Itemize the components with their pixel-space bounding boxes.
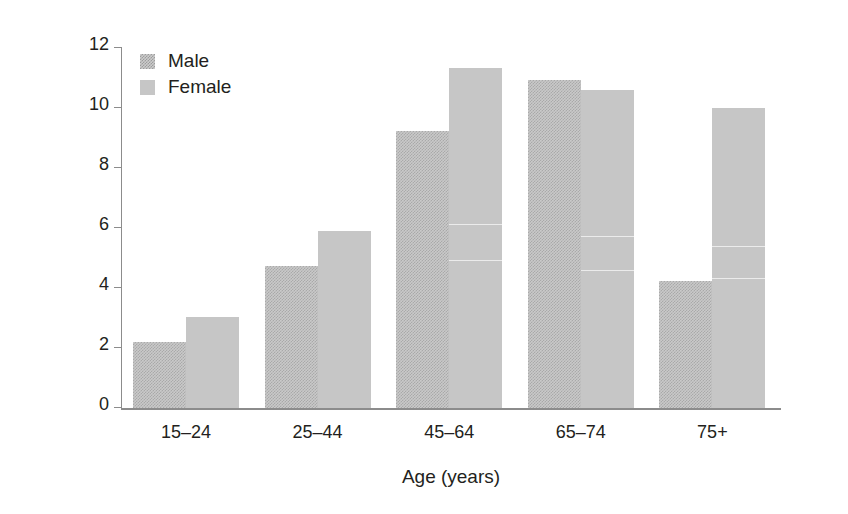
plot-area: 024681012 15–2425–4445–6465–7475+ bbox=[122, 48, 780, 408]
legend-label-male: Male bbox=[168, 50, 209, 72]
bar-male-2 bbox=[396, 131, 449, 409]
bar-scanline bbox=[581, 270, 634, 271]
bar-scanline bbox=[581, 236, 634, 237]
bar-female-3 bbox=[581, 90, 634, 408]
bar-female-2 bbox=[449, 68, 502, 409]
bar-male-1 bbox=[265, 266, 318, 409]
bar-scanline bbox=[712, 246, 765, 247]
bar-male-3 bbox=[528, 80, 581, 409]
y-axis-tick-mark bbox=[114, 347, 122, 348]
bar-scanline bbox=[449, 224, 502, 225]
bar-female-1 bbox=[318, 231, 371, 408]
incidence-by-age-bar-chart: Incidence/1000 population 024681012 15–2… bbox=[0, 0, 848, 514]
x-axis-category-label: 45–64 bbox=[376, 422, 522, 443]
x-axis-category-label: 75+ bbox=[639, 422, 785, 443]
y-axis-title: Incidence/1000 population bbox=[18, 0, 48, 82]
bar-male-4 bbox=[659, 281, 712, 409]
bar-series-group bbox=[122, 48, 780, 408]
bar-scanline bbox=[449, 260, 502, 261]
y-axis-tick-label: 8 bbox=[99, 155, 109, 173]
y-axis-tick-mark bbox=[114, 407, 122, 408]
y-axis-tick-label: 4 bbox=[99, 275, 109, 293]
bar-male-0 bbox=[133, 342, 186, 408]
y-axis-tick-label: 10 bbox=[89, 95, 109, 113]
y-axis-tick-mark bbox=[114, 107, 122, 108]
x-axis-category-label: 15–24 bbox=[113, 422, 259, 443]
x-axis-line bbox=[121, 408, 781, 410]
y-axis-tick-mark bbox=[114, 287, 122, 288]
x-axis-category-label: 25–44 bbox=[245, 422, 391, 443]
x-axis-title: Age (years) bbox=[122, 466, 780, 488]
bar-female-4 bbox=[712, 108, 765, 408]
bar-female-0 bbox=[186, 317, 239, 409]
legend-item-male: Male bbox=[140, 48, 340, 74]
legend-swatch-female-icon bbox=[140, 80, 155, 95]
legend-item-female: Female bbox=[140, 74, 340, 100]
bar-scanline bbox=[712, 278, 765, 279]
legend-label-female: Female bbox=[168, 76, 231, 98]
x-axis-category-label: 65–74 bbox=[508, 422, 654, 443]
y-axis-tick-mark bbox=[114, 227, 122, 228]
y-axis-tick-label: 6 bbox=[99, 215, 109, 233]
y-axis-tick-mark bbox=[114, 167, 122, 168]
y-axis-tick-label: 0 bbox=[99, 395, 109, 413]
legend-swatch-male-icon bbox=[140, 54, 155, 69]
y-axis-tick-mark bbox=[114, 47, 122, 48]
y-axis-tick-label: 12 bbox=[89, 35, 109, 53]
chart-legend: Male Female bbox=[140, 48, 340, 100]
y-axis-tick-label: 2 bbox=[99, 335, 109, 353]
